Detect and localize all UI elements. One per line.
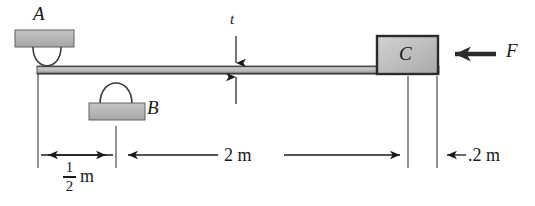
support-a-pin-arc: [33, 47, 61, 66]
label-force-f: F: [506, 41, 518, 60]
dim-label-half-meter: 1 2 m: [63, 160, 94, 194]
dim-label-point-two-meters: .2 m: [468, 146, 500, 164]
label-support-a: A: [33, 4, 45, 23]
fraction-unit: m: [80, 166, 94, 187]
label-thickness-t: t: [230, 12, 234, 27]
support-a: [15, 30, 74, 66]
fraction-half: 1 2: [63, 160, 76, 194]
support-b-pad: [89, 103, 145, 120]
label-block-c: C: [399, 44, 412, 63]
dim-label-two-meters: 2 m: [224, 146, 252, 164]
beam-loading-diagram: A B C F t 1 2 m 2 m .2 m: [0, 0, 535, 206]
label-support-b: B: [147, 98, 159, 117]
fraction-numerator: 1: [64, 160, 76, 176]
fraction-denominator: 2: [64, 178, 76, 194]
support-b: [89, 83, 145, 120]
support-a-pad: [15, 30, 74, 47]
support-b-pin-arc: [100, 83, 132, 104]
